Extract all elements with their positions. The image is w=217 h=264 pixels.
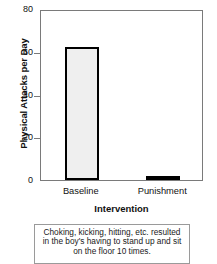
x-axis-title: Intervention xyxy=(40,203,203,214)
y-axis-tick: 0 xyxy=(0,181,40,182)
y-axis-tick-label: 80 xyxy=(23,4,33,14)
y-axis-tick: 20 xyxy=(0,138,40,139)
y-axis-tick-label: 0 xyxy=(28,175,33,185)
y-axis-tick: 60 xyxy=(0,53,40,54)
bar xyxy=(146,176,180,180)
y-axis-tick: 40 xyxy=(0,96,40,97)
y-axis-tick-label: 40 xyxy=(23,90,33,100)
plot-area xyxy=(40,10,203,181)
bar xyxy=(65,47,99,180)
y-axis-tick-label: 60 xyxy=(23,47,33,57)
x-axis-tick-label: Punishment xyxy=(112,186,212,196)
caption-line: on the floor 10 times. xyxy=(39,247,185,256)
y-axis-tick: 80 xyxy=(0,10,40,11)
y-axis-tick-label: 20 xyxy=(23,132,33,142)
caption-box: Choking, kicking, hitting, etc. resulted… xyxy=(34,224,190,264)
